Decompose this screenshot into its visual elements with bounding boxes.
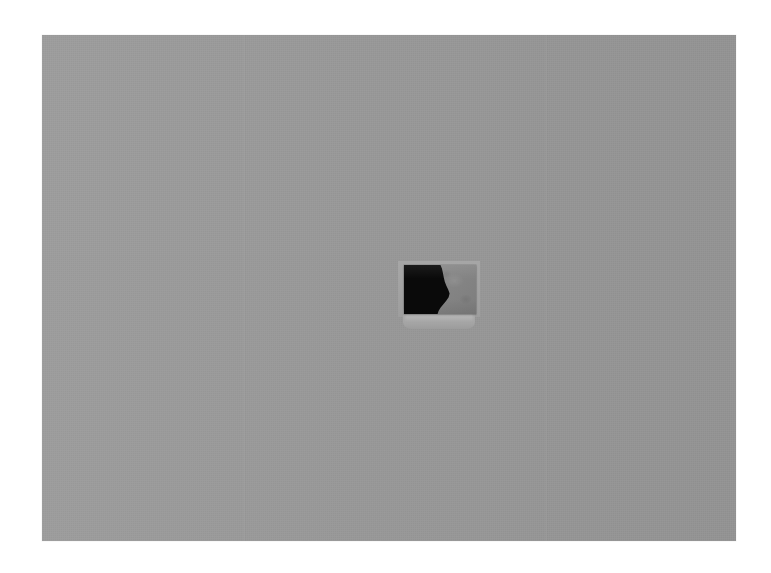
image-scene	[0, 0, 771, 573]
shelf-highlight	[405, 314, 473, 321]
mounted-object-group	[394, 257, 484, 333]
canvas-seam-right	[545, 35, 548, 541]
canvas-seam-left	[243, 35, 246, 541]
grey-canvas-field	[42, 35, 736, 541]
square-panel	[404, 265, 476, 314]
canvas-weave-texture	[42, 35, 736, 541]
